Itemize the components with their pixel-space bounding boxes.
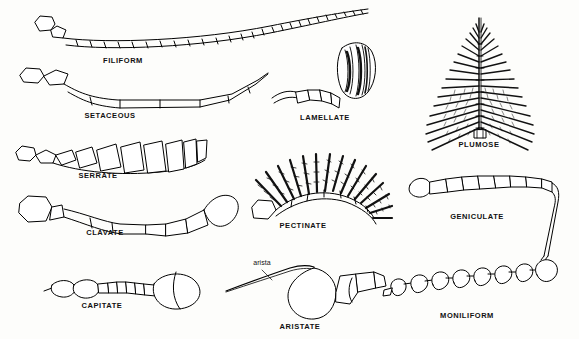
- label-moniliform: MONILIFORM: [440, 311, 494, 320]
- lamellate-drawing: [272, 43, 375, 108]
- antenna-illustrations: [0, 0, 579, 339]
- moniliform-drawing: [383, 260, 557, 296]
- filiform-drawing: [35, 9, 368, 48]
- label-geniculate: GENICULATE: [450, 212, 504, 221]
- label-aristate: ARISTATE: [280, 322, 321, 331]
- setaceous-drawing: [20, 68, 268, 108]
- plumose-drawing: [426, 18, 534, 150]
- label-pectinate: PECTINATE: [280, 221, 327, 230]
- serrate-drawing: [16, 139, 207, 174]
- label-serrate: SERRATE: [78, 171, 117, 180]
- label-setaceous: SETACEOUS: [84, 111, 135, 120]
- pectinate-drawing: [252, 154, 392, 224]
- label-lamellate: LAMELLATE: [300, 113, 350, 122]
- antenna-types-figure: FILIFORM SETACEOUS SERRATE CLAVATE CAPIT…: [0, 0, 579, 339]
- label-plumose: PLUMOSE: [459, 140, 500, 149]
- label-capitate: CAPITATE: [82, 301, 123, 310]
- label-filiform: FILIFORM: [103, 56, 143, 65]
- aristate-drawing: [226, 266, 386, 319]
- label-clavate: CLAVATE: [86, 228, 124, 237]
- clavate-drawing: [19, 195, 238, 236]
- annotation-arista: arista: [253, 259, 271, 266]
